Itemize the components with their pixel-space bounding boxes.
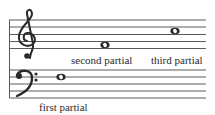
note-third-partial <box>170 28 179 35</box>
treble-clef-dot <box>24 53 30 59</box>
label-second-partial: second partial <box>71 55 132 66</box>
label-third-partial: third partial <box>151 55 203 66</box>
bass-clef-icon <box>16 71 38 96</box>
treble-clef-icon <box>19 10 35 58</box>
note-second-partial <box>100 42 109 49</box>
note-first-partial <box>56 74 65 81</box>
bass-staff <box>9 70 206 98</box>
label-first-partial: first partial <box>39 102 88 113</box>
